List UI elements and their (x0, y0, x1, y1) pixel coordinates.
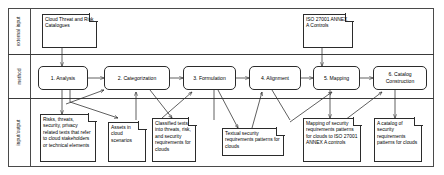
lane-label-external-input-text: external input (17, 17, 22, 47)
lane-label-divider (30, 8, 31, 167)
artifact-label: Textual security requirements patterns f… (225, 131, 281, 150)
process-step-1-analysis[interactable]: 1. Analysis (38, 66, 88, 90)
external-input-cloud-threat-risk-catalogues[interactable]: Cloud Threat and Risk Catalogues (42, 14, 97, 48)
lane-separator-1 (8, 54, 434, 55)
process-step-3-formulation[interactable]: 3. Formulation (183, 66, 236, 90)
artifact-label: Assets in cloud scenarios (111, 125, 143, 144)
artifact-catalog-of-patterns[interactable]: A catalog of security requirements patte… (374, 118, 422, 162)
process-step-2-label: 2. Categorization (118, 75, 157, 82)
process-step-2-categorization[interactable]: 2. Categorization (104, 66, 170, 90)
process-step-3-label: 3. Formulation (193, 75, 226, 82)
process-step-5-label: 5. Mapping (324, 75, 349, 82)
process-step-4-alignment[interactable]: 4. Alignment (249, 66, 301, 90)
artifact-classified-texts[interactable]: Classified texts into threats, risk, and… (152, 118, 196, 162)
artifact-mapping-to-iso[interactable]: Mapping of security requirements pattern… (303, 118, 361, 162)
lane-label-input-output-text: input/output (17, 120, 22, 146)
artifact-textual-security-patterns[interactable]: Textual security requirements patterns f… (222, 128, 284, 156)
external-input-label: ISO 27001 ANNEX A Controls (306, 17, 350, 30)
artifact-label: Risks, threats, security, privacy relate… (43, 117, 93, 149)
lane-label-method: method (8, 55, 30, 98)
artifact-label: Classified texts into threats, risk, and… (155, 121, 193, 153)
lane-label-external-input: external input (8, 9, 30, 54)
artifact-assets-cloud-scenarios[interactable]: Assets in cloud scenarios (108, 122, 146, 162)
lane-label-method-text: method (16, 68, 21, 84)
lane-separator-2 (8, 98, 434, 99)
process-step-4-label: 4. Alignment (261, 75, 289, 82)
process-step-6-label: 6. Catalog Construction (376, 71, 424, 84)
process-step-1-label: 1. Analysis (51, 75, 75, 82)
external-input-label: Cloud Threat and Risk Catalogues (45, 17, 94, 30)
artifact-risks-threats-texts[interactable]: Risks, threats, security, privacy relate… (40, 114, 96, 162)
process-step-6-catalog-construction[interactable]: 6. Catalog Construction (373, 66, 427, 90)
process-flow-diagram: external input method input/output (0, 0, 444, 175)
external-input-iso-27001-annex-a-controls[interactable]: ISO 27001 ANNEX A Controls (303, 14, 353, 48)
artifact-label: A catalog of security requirements patte… (377, 121, 419, 147)
lane-label-input-output: input/output (8, 99, 30, 166)
artifact-label: Mapping of security requirements pattern… (306, 121, 358, 147)
process-step-5-mapping[interactable]: 5. Mapping (313, 66, 360, 90)
